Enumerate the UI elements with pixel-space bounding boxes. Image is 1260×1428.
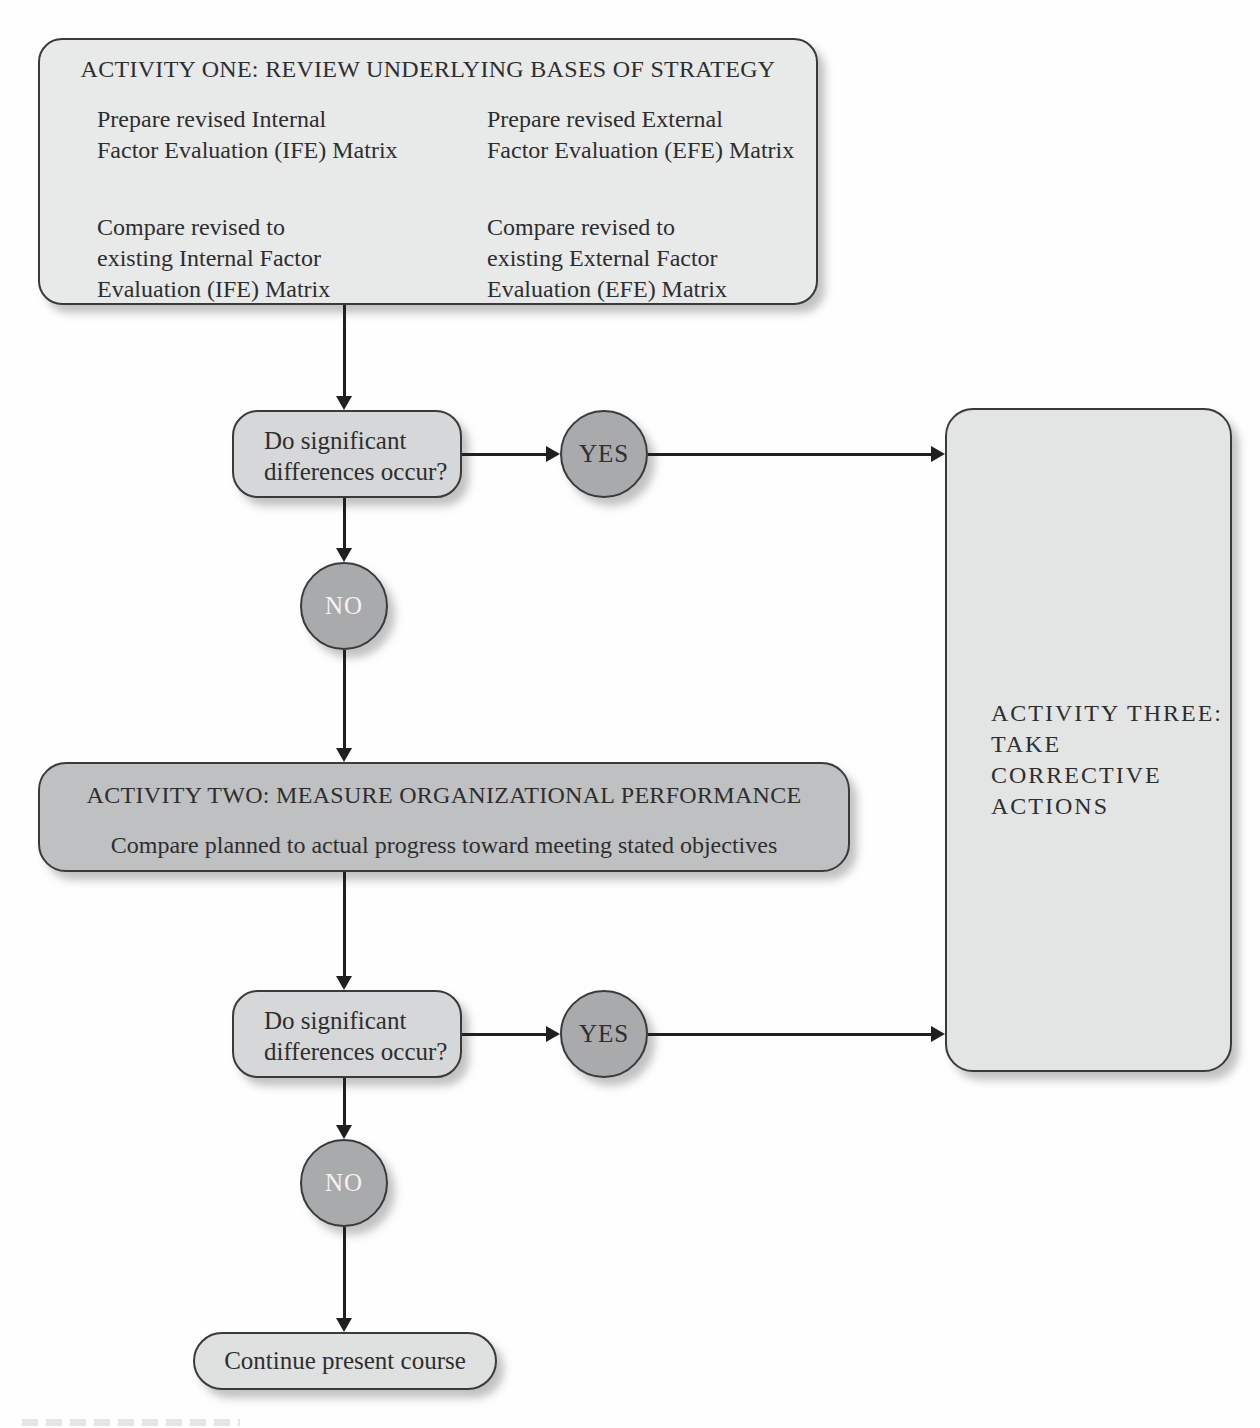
continue-label: Continue present course (224, 1347, 466, 1375)
arrowhead-down-icon (336, 748, 352, 762)
activity-three-box: ACTIVITY THREE: TAKE CORRECTIVE ACTIONS (945, 408, 1232, 1072)
yes-one-label: YES (579, 440, 629, 468)
arrowhead-down-icon (336, 976, 352, 990)
text-line: ACTIVITY THREE: (991, 698, 1230, 729)
text-line: Do significant (264, 425, 460, 456)
yes-one-circle: YES (560, 410, 648, 498)
arrowhead-right-icon (546, 446, 560, 462)
connector-no-two-to-continue (343, 1227, 346, 1318)
decision-two-box: Do significant differences occur? (232, 990, 462, 1078)
text-line: Compare revised to (487, 212, 817, 243)
text-line: Do significant (264, 1005, 460, 1036)
activity-one-item-prepare-ife: Prepare revised Internal Factor Evaluati… (97, 104, 427, 166)
no-two-label: NO (325, 1169, 363, 1197)
connector-decision-two-to-yes (462, 1033, 547, 1036)
activity-one-item-prepare-efe: Prepare revised External Factor Evaluati… (487, 104, 817, 166)
text-line: existing Internal Factor (97, 243, 427, 274)
text-line: Factor Evaluation (IFE) Matrix (97, 135, 427, 166)
text-line: Factor Evaluation (EFE) Matrix (487, 135, 817, 166)
connector-decision-two-to-no (343, 1078, 346, 1127)
connector-yes-one-to-activity-three (648, 453, 932, 456)
text-line: ACTIONS (991, 791, 1230, 822)
yes-two-label: YES (579, 1020, 629, 1048)
flowchart-canvas: ACTIVITY ONE: REVIEW UNDERLYING BASES OF… (0, 0, 1260, 1428)
arrowhead-down-icon (336, 1318, 352, 1332)
connector-yes-two-to-activity-three (648, 1033, 932, 1036)
arrowhead-right-icon (546, 1026, 560, 1042)
text-line: Evaluation (EFE) Matrix (487, 274, 817, 305)
decision-one-label: Do significant differences occur? (234, 412, 460, 487)
text-line: Compare revised to (97, 212, 427, 243)
activity-one-box: ACTIVITY ONE: REVIEW UNDERLYING BASES OF… (38, 38, 818, 305)
text-line: differences occur? (264, 456, 460, 487)
text-line: Prepare revised External (487, 104, 817, 135)
cropped-caption-sliver (22, 1419, 240, 1426)
text-line: differences occur? (264, 1036, 460, 1067)
text-line: Evaluation (IFE) Matrix (97, 274, 427, 305)
arrowhead-down-icon (336, 1125, 352, 1139)
continue-present-course-box: Continue present course (193, 1332, 497, 1390)
arrowhead-right-icon (931, 446, 945, 462)
decision-two-label: Do significant differences occur? (234, 992, 460, 1067)
yes-two-circle: YES (560, 990, 648, 1078)
activity-one-item-compare-ife: Compare revised to existing Internal Fac… (97, 212, 427, 305)
connector-decision-one-to-yes (462, 453, 547, 456)
arrowhead-down-icon (336, 548, 352, 562)
arrowhead-right-icon (931, 1026, 945, 1042)
connector-activity-one-to-decision-one (343, 305, 346, 397)
text-line: existing External Factor (487, 243, 817, 274)
no-two-circle: NO (300, 1139, 388, 1227)
activity-three-label: ACTIVITY THREE: TAKE CORRECTIVE ACTIONS (991, 698, 1230, 822)
activity-one-item-compare-efe: Compare revised to existing External Fac… (487, 212, 817, 305)
activity-two-subtitle: Compare planned to actual progress towar… (40, 832, 848, 859)
activity-one-title: ACTIVITY ONE: REVIEW UNDERLYING BASES OF… (40, 56, 816, 83)
arrowhead-down-icon (336, 396, 352, 410)
connector-decision-one-to-no (343, 498, 346, 550)
activity-two-box: ACTIVITY TWO: MEASURE ORGANIZATIONAL PER… (38, 762, 850, 872)
connector-activity-two-to-decision-two (343, 872, 346, 976)
text-line: TAKE CORRECTIVE (991, 729, 1230, 791)
activity-two-title: ACTIVITY TWO: MEASURE ORGANIZATIONAL PER… (40, 782, 848, 809)
no-one-label: NO (325, 592, 363, 620)
no-one-circle: NO (300, 562, 388, 650)
text-line: Prepare revised Internal (97, 104, 427, 135)
decision-one-box: Do significant differences occur? (232, 410, 462, 498)
connector-no-one-to-activity-two (343, 650, 346, 748)
